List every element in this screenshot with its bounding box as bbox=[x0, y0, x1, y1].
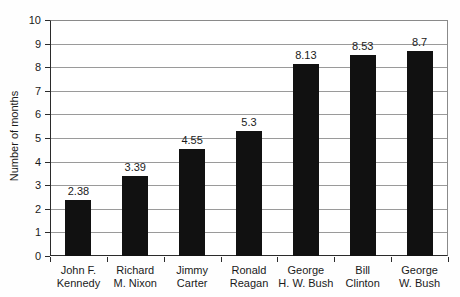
bar-value-label: 8.13 bbox=[295, 49, 316, 61]
x-tick-mark bbox=[164, 257, 165, 262]
x-tick-mark bbox=[107, 257, 108, 262]
x-tick-mark bbox=[334, 257, 335, 262]
y-tick-label: 0 bbox=[21, 250, 41, 262]
y-tick-mark bbox=[45, 67, 50, 68]
bar bbox=[65, 200, 91, 256]
x-tick-mark bbox=[391, 257, 392, 262]
bar bbox=[179, 149, 205, 256]
y-tick-label: 8 bbox=[21, 61, 41, 73]
gridline bbox=[51, 67, 447, 68]
x-tick-mark bbox=[448, 257, 449, 262]
y-tick-label: 3 bbox=[21, 179, 41, 191]
y-tick-label: 10 bbox=[21, 14, 41, 26]
y-tick-mark bbox=[45, 185, 50, 186]
y-tick-label: 2 bbox=[21, 203, 41, 215]
y-tick-mark bbox=[45, 44, 50, 45]
x-axis-label: George W. Bush bbox=[384, 264, 455, 290]
bar bbox=[293, 64, 319, 256]
bar-value-label: 4.55 bbox=[181, 134, 202, 146]
bar-value-label: 3.39 bbox=[125, 161, 146, 173]
y-tick-mark bbox=[45, 162, 50, 163]
bar-value-label: 8.53 bbox=[352, 40, 373, 52]
bar-chart-figure: Number of months 012345678910 John F. Ke… bbox=[0, 0, 460, 297]
y-tick-mark bbox=[45, 232, 50, 233]
x-tick-mark bbox=[277, 257, 278, 262]
y-tick-mark bbox=[45, 91, 50, 92]
y-tick-label: 1 bbox=[21, 226, 41, 238]
gridline bbox=[51, 91, 447, 92]
y-tick-mark bbox=[45, 138, 50, 139]
y-tick-mark bbox=[45, 209, 50, 210]
y-axis-title: Number of months bbox=[8, 56, 20, 216]
y-tick-mark bbox=[45, 20, 50, 21]
bar bbox=[407, 51, 433, 256]
bar bbox=[236, 131, 262, 256]
x-tick-mark bbox=[221, 257, 222, 262]
x-tick-mark bbox=[50, 257, 51, 262]
bar-value-label: 8.7 bbox=[412, 36, 427, 48]
bar-value-label: 5.3 bbox=[241, 116, 256, 128]
y-tick-label: 6 bbox=[21, 108, 41, 120]
y-tick-label: 7 bbox=[21, 85, 41, 97]
y-tick-label: 5 bbox=[21, 132, 41, 144]
gridline bbox=[51, 44, 447, 45]
bar-value-label: 2.38 bbox=[68, 185, 89, 197]
bar bbox=[122, 176, 148, 256]
bar bbox=[350, 55, 376, 256]
y-tick-label: 9 bbox=[21, 38, 41, 50]
y-tick-mark bbox=[45, 114, 50, 115]
y-tick-label: 4 bbox=[21, 156, 41, 168]
